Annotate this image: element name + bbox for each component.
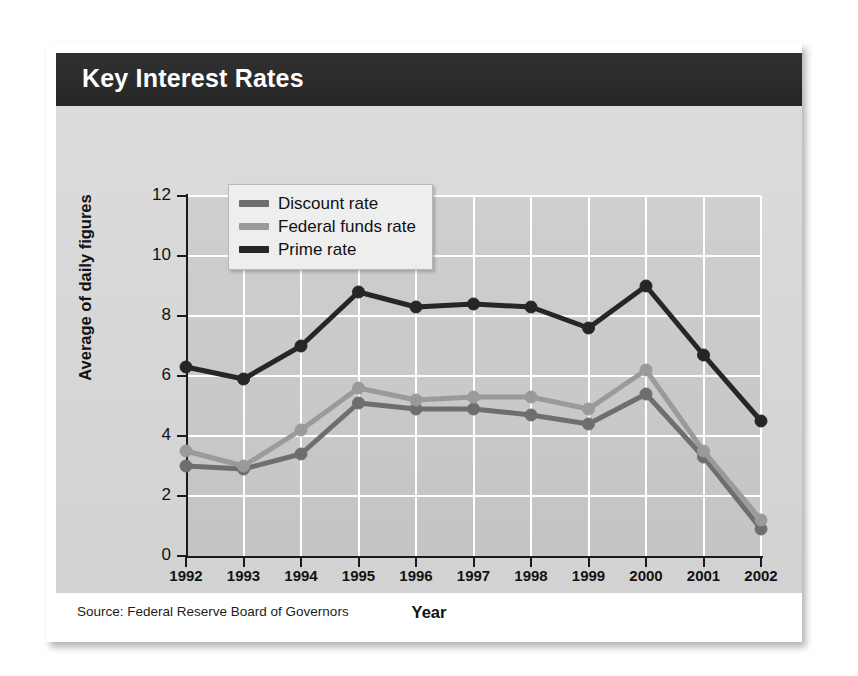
data-point <box>353 397 365 409</box>
x-tick-mark <box>358 557 360 567</box>
legend-swatch-icon <box>239 200 269 207</box>
data-point <box>410 394 422 406</box>
legend-swatch-icon <box>239 246 269 253</box>
x-tick-mark <box>530 557 532 567</box>
legend-swatch-icon <box>239 223 269 230</box>
data-point <box>640 280 652 292</box>
legend-item: Discount rate <box>239 192 416 215</box>
y-tick-label: 2 <box>131 485 171 505</box>
data-point <box>180 445 192 457</box>
x-tick-mark <box>300 557 302 567</box>
y-tick-label: 0 <box>131 545 171 565</box>
chart-legend: Discount rateFederal funds ratePrime rat… <box>228 184 433 270</box>
data-point <box>583 403 595 415</box>
legend-item: Federal funds rate <box>239 215 416 238</box>
x-tick-mark <box>473 557 475 567</box>
data-point <box>180 460 192 472</box>
data-point <box>755 415 767 427</box>
legend-item: Prime rate <box>239 238 416 261</box>
y-tick-label: 12 <box>131 185 171 205</box>
plot-wrapper: 024681012 199219931994199519961997199819… <box>51 48 807 647</box>
data-point <box>583 322 595 334</box>
x-tick-label: 2002 <box>726 567 796 584</box>
y-tick-label: 8 <box>131 305 171 325</box>
x-axis-line <box>186 556 763 558</box>
data-point <box>353 286 365 298</box>
y-tick-label: 10 <box>131 245 171 265</box>
chart-card-inner: Key Interest Rates Source: Federal Reser… <box>51 48 797 637</box>
x-tick-mark <box>243 557 245 567</box>
chart-card: Key Interest Rates Source: Federal Reser… <box>46 43 802 642</box>
data-point <box>640 364 652 376</box>
y-tick-label: 6 <box>131 365 171 385</box>
x-tick-mark <box>703 557 705 567</box>
y-axis-title: Average of daily figures <box>76 158 95 418</box>
data-point <box>525 391 537 403</box>
x-tick-mark <box>588 557 590 567</box>
legend-label: Prime rate <box>278 240 356 260</box>
data-point <box>238 373 250 385</box>
data-point <box>468 298 480 310</box>
series-discount-rate <box>180 388 767 535</box>
series-federal-funds-rate <box>180 364 767 526</box>
x-tick-mark <box>415 557 417 567</box>
legend-label: Federal funds rate <box>278 217 416 237</box>
data-point <box>698 349 710 361</box>
legend-label: Discount rate <box>278 194 378 214</box>
data-point <box>238 460 250 472</box>
screenshot-stage: Key Interest Rates Source: Federal Reser… <box>0 0 858 676</box>
data-point <box>180 361 192 373</box>
data-point <box>353 382 365 394</box>
data-point <box>295 424 307 436</box>
data-point <box>698 445 710 457</box>
data-point <box>583 418 595 430</box>
data-point <box>525 409 537 421</box>
y-tick-label: 4 <box>131 425 171 445</box>
data-point <box>525 301 537 313</box>
data-point <box>640 388 652 400</box>
data-point <box>410 301 422 313</box>
x-tick-mark <box>645 557 647 567</box>
data-point <box>295 448 307 460</box>
data-point <box>468 391 480 403</box>
data-point <box>468 403 480 415</box>
data-point <box>755 514 767 526</box>
data-point <box>295 340 307 352</box>
x-axis-title: Year <box>51 603 807 622</box>
x-tick-mark <box>185 557 187 567</box>
x-tick-mark <box>760 557 762 567</box>
